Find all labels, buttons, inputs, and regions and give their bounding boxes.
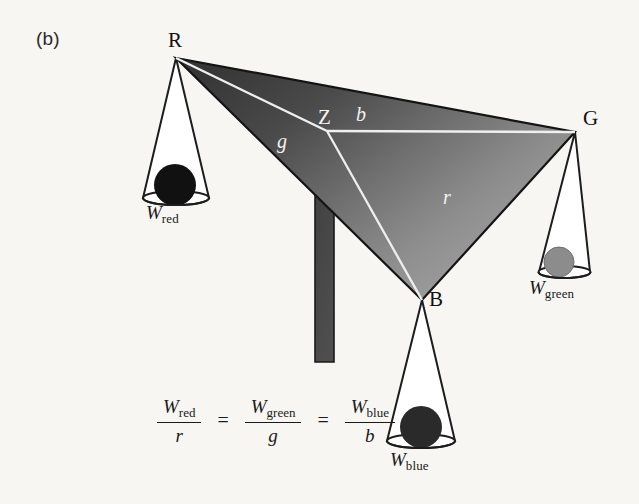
- centroid-label-Z: Z: [318, 105, 331, 130]
- pan-red-ball: [154, 164, 196, 206]
- weight-blue-symbol: W: [390, 449, 406, 470]
- equation-red-denominator: r: [176, 423, 183, 447]
- equation-red-num-symbol: W: [163, 396, 179, 417]
- weight-label-red: Wred: [146, 202, 179, 227]
- weight-red-subscript: red: [162, 211, 179, 226]
- triangle-body: [176, 58, 575, 300]
- weight-green-subscript: green: [545, 286, 574, 301]
- equation-term-green: Wgreen g: [245, 396, 302, 447]
- vertex-label-G: G: [583, 106, 598, 131]
- segment-label-b: b: [356, 103, 366, 126]
- weight-green-symbol: W: [529, 277, 545, 298]
- equation-blue-numerator: Wblue: [345, 396, 395, 422]
- equation-blue-denominator: b: [365, 423, 375, 447]
- weight-blue-subscript: blue: [406, 458, 429, 473]
- panel-label: (b): [36, 28, 60, 50]
- vertex-label-B: B: [429, 287, 443, 312]
- balance-equation: Wred r = Wgreen g = Wblue b: [150, 396, 402, 447]
- color-triangle: [176, 58, 575, 300]
- pan-green-ball: [544, 247, 574, 277]
- weight-label-blue: Wblue: [390, 449, 429, 474]
- equation-red-num-subscript: red: [179, 405, 196, 420]
- equation-operator-1: =: [217, 409, 228, 434]
- segment-label-g: g: [277, 130, 287, 153]
- figure-panel-b: (b) R G B Z g b r Wred Wgreen Wblue Wred…: [0, 0, 639, 504]
- equation-green-numerator: Wgreen: [245, 396, 302, 422]
- equation-blue-num-symbol: W: [351, 396, 367, 417]
- equation-term-blue: Wblue b: [345, 396, 395, 447]
- equation-blue-num-subscript: blue: [367, 405, 389, 420]
- equation-term-red: Wred r: [157, 396, 201, 447]
- vertex-label-R: R: [168, 28, 182, 53]
- equation-green-denominator: g: [268, 423, 278, 447]
- equation-operator-2: =: [317, 409, 328, 434]
- equation-green-num-subscript: green: [267, 405, 296, 420]
- equation-red-numerator: Wred: [157, 396, 201, 422]
- pan-blue-ball: [400, 406, 442, 448]
- segment-line-b: [327, 131, 575, 132]
- weight-red-symbol: W: [146, 202, 162, 223]
- equation-green-num-symbol: W: [251, 396, 267, 417]
- segment-label-r: r: [443, 186, 451, 209]
- weight-label-green: Wgreen: [529, 277, 574, 302]
